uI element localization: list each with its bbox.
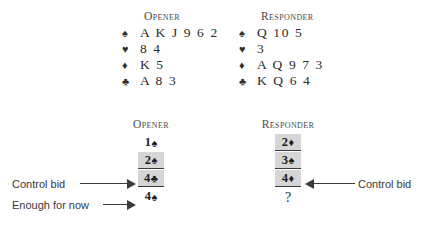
arrow-head: [127, 200, 136, 210]
bid-opener-2-level: 2: [145, 153, 151, 168]
bid-opener-3: 4 ♣: [138, 170, 164, 187]
bid-opener-4: 4 ♠: [138, 188, 164, 205]
diamond-icon: ♦: [289, 172, 295, 184]
auction-column-responder: Responder 2 ♦ 3 ♠ 4 ♦ ?: [255, 118, 321, 206]
bid-responder-2: 3 ♠: [275, 152, 301, 169]
auction-opener-title: Opener: [118, 118, 184, 130]
hand-responder-spades-cards: Q 10 5: [257, 25, 303, 41]
annotation-control-bid-right: Control bid: [358, 178, 411, 190]
hand-opener-title: Opener: [144, 10, 219, 22]
hand-opener-suit-spades: ♠ A K J 9 6 2: [122, 25, 219, 41]
hand-responder-clubs-cards: K Q 6 4: [257, 73, 311, 89]
hand-opener-suit-hearts: ♥ 8 4: [122, 41, 219, 57]
hand-responder-suit-spades: ♠ Q 10 5: [239, 25, 324, 41]
hand-responder-suit-hearts: ♥ 3: [239, 41, 324, 57]
annotation-enough-for-now: Enough for now: [12, 199, 89, 211]
club-icon: ♣: [122, 73, 140, 89]
arrow-right-control-bid-left: [80, 179, 136, 189]
diamond-icon: ♦: [239, 57, 257, 73]
hand-responder-suit-clubs: ♣ K Q 6 4: [239, 73, 324, 89]
arrow-right-enough-for-now: [103, 200, 136, 210]
arrow-shaft: [103, 204, 127, 205]
arrow-shaft: [80, 183, 127, 184]
hand-opener-hearts-cards: 8 4: [140, 41, 162, 57]
hand-opener-suit-clubs: ♣ A 8 3: [122, 73, 219, 89]
hand-responder-hearts-cards: 3: [257, 41, 265, 57]
spade-icon: ♠: [122, 25, 140, 41]
diamond-icon: ♦: [122, 57, 140, 73]
spade-icon: ♠: [151, 137, 157, 149]
bridge-hand-diagram: Opener ♠ A K J 9 6 2 ♥ 8 4 ♦ K 5 ♣ A 8 3…: [0, 0, 441, 226]
hand-opener-suit-diamonds: ♦ K 5: [122, 57, 219, 73]
bid-responder-3-level: 4: [282, 171, 288, 186]
hand-opener-spades-cards: A K J 9 6 2: [140, 25, 219, 41]
club-icon: ♣: [239, 73, 257, 89]
spade-icon: ♠: [151, 191, 157, 203]
bid-opener-1-level: 1: [145, 135, 151, 150]
bid-responder-pending: ?: [275, 189, 301, 206]
heart-icon: ♥: [239, 41, 257, 57]
spade-icon: ♠: [288, 154, 294, 166]
bid-opener-1: 1 ♠: [138, 134, 164, 151]
spade-icon: ♠: [151, 154, 157, 166]
auction-responder-bids: 2 ♦ 3 ♠ 4 ♦ ?: [255, 134, 321, 206]
auction-responder-title: Responder: [255, 118, 321, 130]
hand-responder-suit-diamonds: ♦ A Q 9 7 3: [239, 57, 324, 73]
bid-opener-4-level: 4: [145, 189, 151, 204]
arrow-head: [127, 179, 136, 189]
hand-opener-diamonds-cards: K 5: [140, 57, 165, 73]
heart-icon: ♥: [122, 41, 140, 57]
bid-responder-2-level: 3: [282, 153, 288, 168]
bid-responder-1-level: 2: [282, 135, 288, 150]
hand-opener-clubs-cards: A 8 3: [140, 73, 177, 89]
annotation-control-bid-left: Control bid: [12, 178, 65, 190]
bid-responder-1: 2 ♦: [275, 134, 301, 151]
arrow-shaft: [314, 183, 355, 184]
diamond-icon: ♦: [289, 136, 295, 148]
arrow-head: [305, 179, 314, 189]
bid-opener-3-level: 4: [144, 171, 150, 186]
hand-responder: Responder ♠ Q 10 5 ♥ 3 ♦ A Q 9 7 3 ♣ K Q…: [239, 10, 324, 89]
hand-opener: Opener ♠ A K J 9 6 2 ♥ 8 4 ♦ K 5 ♣ A 8 3: [122, 10, 219, 89]
bid-opener-2: 2 ♠: [138, 152, 164, 169]
hand-responder-diamonds-cards: A Q 9 7 3: [257, 57, 324, 73]
arrow-left-control-bid-right: [305, 179, 355, 189]
club-icon: ♣: [151, 172, 158, 184]
hand-responder-title: Responder: [261, 10, 324, 22]
bid-responder-3: 4 ♦: [275, 170, 301, 187]
spade-icon: ♠: [239, 25, 257, 41]
auction-column-opener: Opener 1 ♠ 2 ♠ 4 ♣ 4 ♠: [118, 118, 184, 206]
auction-opener-bids: 1 ♠ 2 ♠ 4 ♣ 4 ♠: [118, 134, 184, 206]
